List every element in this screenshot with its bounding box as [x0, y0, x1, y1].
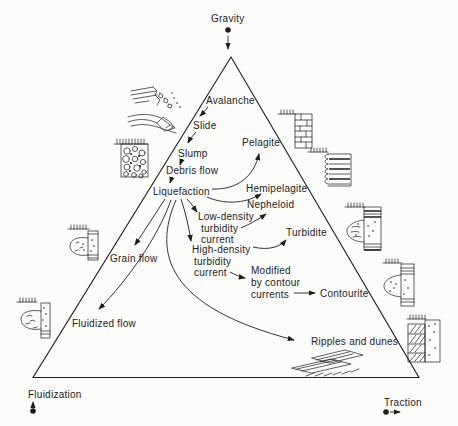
label-hemipelagite: Hemipelagite	[246, 183, 308, 194]
label-gravity: Gravity	[211, 13, 244, 24]
label-low-density-turbidity-current: Low-density turbidity current	[198, 211, 254, 245]
label-turbidite: Turbidite	[286, 227, 327, 238]
arrow-highdensity-modified	[230, 272, 245, 278]
process-triangle-diagram: Gravity Fluidization Traction Avalanche …	[0, 0, 458, 426]
label-low-density-line1: Low-density	[198, 211, 254, 222]
label-slide: Slide	[193, 120, 217, 131]
label-debris-flow: Debris flow	[166, 165, 219, 176]
fluidized-flow-log-icon	[17, 298, 50, 338]
avalanche-icon	[131, 87, 181, 108]
arrow-liquefaction-highdensity	[181, 199, 191, 241]
label-high-density-line2: turbidity	[194, 256, 231, 267]
label-ripples-and-dunes: Ripples and dunes	[311, 336, 398, 347]
slump-breccia-icon	[114, 139, 148, 178]
label-nepheloid: Nepheloid	[247, 199, 294, 210]
gravity-dot	[225, 27, 231, 33]
contourite-log-icon	[383, 259, 414, 306]
ripples-icon	[292, 350, 363, 376]
label-modified-line2: by contour	[251, 277, 301, 288]
traction-vertex-marker	[383, 409, 400, 415]
figure-canvas: Gravity Fluidization Traction Avalanche …	[0, 0, 458, 426]
label-modified-line1: Modified	[251, 265, 291, 276]
traction-dot	[383, 409, 389, 415]
turbidite-log-icon	[345, 203, 381, 250]
slide-icon	[128, 114, 176, 133]
label-low-density-line2: turbidity	[201, 223, 238, 234]
label-contourite: Contourite	[320, 288, 369, 299]
traction-log-icon	[407, 315, 440, 362]
label-traction: Traction	[384, 397, 422, 408]
label-avalanche: Avalanche	[206, 95, 255, 106]
label-pelagite: Pelagite	[242, 137, 280, 148]
label-fluidized-flow: Fluidized flow	[72, 318, 137, 329]
hemipelagite-log-icon	[308, 148, 351, 186]
arrow-debris-liquefaction	[170, 177, 173, 183]
label-high-density-turbidity-current: High-density turbidity current	[192, 244, 251, 278]
label-grain-flow: Grain flow	[110, 253, 158, 264]
label-modified-by-contour-currents: Modified by contour currents	[251, 265, 301, 300]
label-high-density-line1: High-density	[192, 244, 251, 255]
label-modified-line3: currents	[251, 289, 289, 300]
pelagite-log-icon	[278, 110, 312, 148]
fluidization-dot	[30, 408, 36, 414]
arrow-avalanche-slide	[200, 107, 208, 116]
label-liquefaction: Liquefaction	[153, 186, 210, 197]
arrow-slide-slump	[188, 132, 196, 143]
gravity-vertex-marker	[225, 27, 231, 49]
label-fluidization: Fluidization	[28, 389, 82, 400]
arrow-liquefaction-lowdensity	[187, 199, 197, 212]
label-slump: Slump	[178, 148, 208, 159]
fluidization-vertex-marker	[30, 402, 36, 414]
grain-flow-log-icon	[68, 225, 98, 260]
arrow-highdensity-turbidite	[253, 240, 286, 248]
label-high-density-line3: current	[194, 267, 227, 278]
